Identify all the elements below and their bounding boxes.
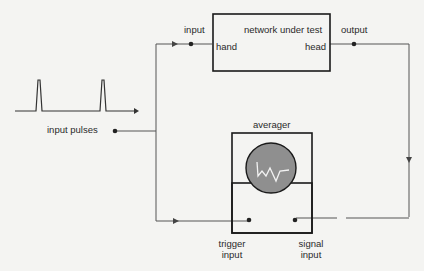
oscilloscope-screen [246, 143, 296, 193]
signal-input-dot [293, 218, 298, 223]
input-pulses-label: input pulses [47, 124, 98, 135]
trigger-input-label: trigger input [212, 238, 252, 260]
arrow-right-icon [173, 218, 179, 224]
trigger-label-line1: trigger [212, 238, 252, 249]
network-title: network under test [244, 24, 322, 35]
signal-input-label: signal input [291, 238, 331, 260]
source-dot [113, 129, 118, 134]
arrow-right-icon [172, 41, 178, 47]
input-label: input [184, 24, 205, 35]
averager-title: averager [253, 119, 291, 130]
signal-label-line1: signal [291, 238, 331, 249]
output-terminal-dot [352, 42, 357, 47]
port-head-label: head [305, 41, 326, 52]
port-hand-label: hand [216, 41, 237, 52]
output-label: output [341, 24, 367, 35]
signal-label-line2: input [291, 249, 331, 260]
trigger-input-dot [247, 218, 252, 223]
trigger-label-line2: input [212, 249, 252, 260]
diagram-canvas [0, 0, 424, 271]
input-terminal-dot [189, 42, 194, 47]
pulse-waveform-icon [15, 80, 139, 114]
arrow-down-icon [406, 157, 412, 163]
